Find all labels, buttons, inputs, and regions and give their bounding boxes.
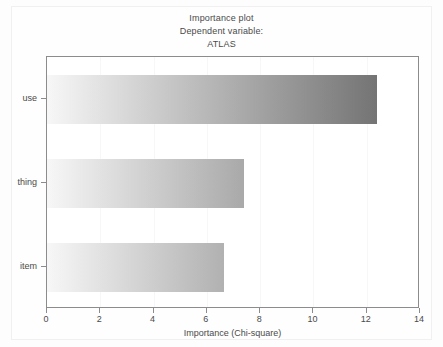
y-tick-item (41, 266, 47, 267)
x-tick-label-12: 12 (361, 314, 371, 324)
x-axis-title: Importance (Chi-square) (46, 328, 419, 338)
bar-thing (47, 159, 244, 208)
importance-plot-figure: Importance plot Dependent variable: ATLA… (0, 0, 443, 347)
x-tick-12 (366, 308, 367, 313)
y-axis-label-use: use (0, 93, 37, 103)
x-tick-2 (99, 308, 100, 313)
chart-subtitle: Dependent variable: (11, 25, 432, 38)
x-tick-6 (206, 308, 207, 313)
x-tick-10 (312, 308, 313, 313)
x-tick-label-2: 2 (97, 314, 102, 324)
plot-area (46, 56, 419, 308)
y-axis-label-item: item (0, 261, 37, 271)
y-tick-thing (41, 182, 47, 183)
x-tick-0 (46, 308, 47, 313)
x-tick-label-6: 6 (203, 314, 208, 324)
chart-dependent-variable: ATLAS (11, 38, 432, 51)
x-tick-label-14: 14 (414, 314, 424, 324)
x-tick-label-4: 4 (150, 314, 155, 324)
y-tick-use (41, 98, 47, 99)
chart-title-block: Importance plot Dependent variable: ATLA… (11, 12, 432, 51)
x-tick-label-8: 8 (257, 314, 262, 324)
plot-inner (47, 57, 418, 307)
x-tick-14 (419, 308, 420, 313)
chart-title: Importance plot (11, 12, 432, 25)
x-tick-8 (259, 308, 260, 313)
x-tick-label-10: 10 (307, 314, 317, 324)
bar-use (47, 75, 377, 124)
x-tick-4 (153, 308, 154, 313)
y-axis-label-thing: thing (0, 177, 37, 187)
bar-item (47, 243, 224, 292)
x-tick-label-0: 0 (43, 314, 48, 324)
